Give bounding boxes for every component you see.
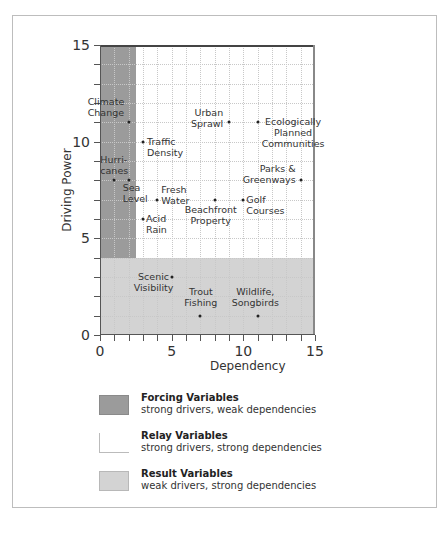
data-point-marker [156,198,159,201]
y-tick-label: 5 [81,230,90,246]
data-point-marker [242,198,245,201]
y-tick [94,296,100,297]
grid-line-vertical [229,45,230,335]
grid-line-horizontal [100,64,315,65]
grid-line-horizontal [100,84,315,85]
x-tick [315,335,316,341]
legend-title: Relay Variables [141,430,228,441]
x-tick [172,335,173,341]
y-tick-label: 15 [72,37,90,53]
grid-line-vertical [114,45,115,335]
y-tick [94,219,100,220]
y-tick [94,277,100,278]
x-axis [100,334,315,335]
plot-area: 051015 051015 Climate ChangeTraffic Dens… [100,45,315,335]
x-tick [215,335,216,341]
x-tick [114,335,115,341]
y-axis [100,45,101,335]
grid-line-horizontal [100,277,315,278]
data-point-marker [142,140,145,143]
data-point-label: Hurri- canes [100,154,128,176]
data-point-label: Golf Courses [246,194,284,216]
grid-line-horizontal [100,103,315,104]
x-tick [157,335,158,341]
x-tick-label: 0 [96,343,105,359]
legend-desc: weak drivers, strong dependencies [141,480,316,491]
x-tick-label: 5 [167,343,176,359]
data-point-marker [113,179,116,182]
x-tick [286,335,287,341]
grid-line-horizontal [100,238,315,239]
grid-line-vertical [286,45,287,335]
y-tick [94,238,100,239]
y-tick [94,64,100,65]
x-tick [272,335,273,341]
grid-line-horizontal [100,316,315,317]
x-tick [129,335,130,341]
relay-swatch [99,433,129,453]
data-point-label: Urban Sprawl [191,107,223,129]
data-point-marker [127,121,130,124]
data-point-marker [299,179,302,182]
x-tick [100,335,101,341]
data-point-label: Climate Change [88,96,125,118]
y-tick-label: 0 [81,327,90,343]
data-point-marker [228,121,231,124]
x-tick [186,335,187,341]
forcing-swatch [99,395,129,415]
legend-desc: strong drivers, weak dependencies [141,404,316,415]
grid-line-horizontal [100,258,315,259]
top-border [100,45,315,47]
data-point-label: Scenic Visibility [134,271,174,293]
x-tick [301,335,302,341]
grid-line-horizontal [100,161,315,162]
data-point-label: Trout Fishing [184,286,217,308]
x-axis-title: Dependency [210,359,286,373]
data-point-label: Sea Level [123,182,148,204]
data-point-label: Traffic Density [147,136,183,158]
x-tick [200,335,201,341]
y-tick [94,142,100,143]
data-point-marker [256,121,259,124]
data-point-marker [142,218,145,221]
legend-desc: strong drivers, strong dependencies [141,442,322,453]
data-point-marker [256,314,259,317]
y-tick [94,258,100,259]
y-tick [94,122,100,123]
data-point-marker [199,314,202,317]
grid-line-vertical [301,45,302,335]
legend-item-forcing: Forcing Variables strong drivers, weak d… [99,392,399,426]
legend-item-result: Result Variables weak drivers, strong de… [99,468,399,502]
x-tick-label: 10 [234,343,252,359]
right-border [313,45,315,335]
data-point-label: Beachfront Property [185,204,237,226]
data-point-label: Parks & Greenways [243,163,296,185]
legend-title: Result Variables [141,468,233,479]
data-point-label: Wildlife, Songbirds [232,286,279,308]
result-swatch [99,471,129,491]
y-tick [94,180,100,181]
data-point-label: Fresh Water [161,184,189,206]
y-tick [94,161,100,162]
y-tick [94,316,100,317]
y-tick-label: 10 [72,134,90,150]
x-tick [243,335,244,341]
x-tick-label: 15 [306,343,324,359]
legend-title: Forcing Variables [141,392,239,403]
y-axis-title: Driving Power [60,148,74,231]
legend-item-relay: Relay Variables strong drivers, strong d… [99,430,399,464]
y-tick [94,45,100,46]
x-tick [258,335,259,341]
data-point-label: Acid Rain [146,213,167,235]
forcing-region [100,45,136,258]
x-tick [143,335,144,341]
y-tick [94,200,100,201]
data-point-marker [213,198,216,201]
x-tick [229,335,230,341]
data-point-label: Ecologically Planned Communities [262,116,325,149]
y-tick [94,84,100,85]
